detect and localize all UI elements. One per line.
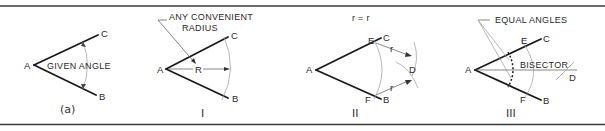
radius-note-label: RADIUS <box>182 23 218 33</box>
panel-ii-caption: II <box>352 107 359 120</box>
point-e-label: E <box>368 35 374 46</box>
panel-a-caption: (a) <box>60 103 75 116</box>
point-c-label: C <box>383 32 390 43</box>
r-label-bottom: r <box>390 82 393 93</box>
given-angle-label: GIVEN ANGLE <box>47 61 111 71</box>
leader-line-lower <box>478 20 511 78</box>
radius-label: R <box>195 64 202 75</box>
leader-line-upper <box>478 20 509 60</box>
point-a-label: A <box>24 60 31 71</box>
point-b-label: B <box>232 93 238 104</box>
any-convenient-label: ANY CONVENIENT <box>169 12 253 22</box>
point-b-label: B <box>543 95 549 106</box>
panel-iii: EQUAL ANGLES BISECTOR A E C D F B III <box>465 15 577 120</box>
point-a-label: A <box>157 64 164 75</box>
angle-bisection-diagram: A C B GIVEN ANGLE (a) R ANY CONVENIENT R… <box>0 0 605 131</box>
equal-angles-label: EQUAL ANGLES <box>495 15 567 25</box>
point-b-label: B <box>383 94 389 105</box>
panel-i: R ANY CONVENIENT RADIUS A C B I <box>157 12 253 120</box>
point-f-label: F <box>365 94 371 105</box>
point-a-label: A <box>306 64 313 75</box>
panel-i-caption: I <box>201 107 204 120</box>
point-c-label: C <box>231 30 238 41</box>
r-label-top: r <box>390 43 393 54</box>
point-d-label: D <box>569 72 576 83</box>
point-a-label: A <box>465 64 472 75</box>
r-arrow-bottom <box>405 80 412 85</box>
point-b-label: B <box>99 91 105 102</box>
panel-iii-caption: III <box>506 107 516 120</box>
ray-ab <box>316 70 381 99</box>
point-e-label: E <box>521 35 527 46</box>
r-equals-r-label: r = r <box>352 13 370 23</box>
equal-angles-arc <box>508 52 513 87</box>
point-c-label: C <box>101 28 108 39</box>
point-f-label: F <box>520 94 526 105</box>
point-c-label: C <box>543 33 550 44</box>
radius-arrowhead <box>224 67 230 71</box>
panel-a: A C B GIVEN ANGLE (a) <box>24 28 111 116</box>
radius-arc-ef <box>374 40 382 99</box>
panel-ii: r r r = r A E C D F B II <box>306 13 418 120</box>
bisector-label: BISECTOR <box>520 60 568 70</box>
r-arrow-top <box>405 52 412 57</box>
point-d-label: D <box>409 64 416 75</box>
